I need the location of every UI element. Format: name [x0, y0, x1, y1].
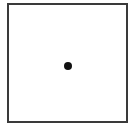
- diagram-canvas: [0, 0, 132, 131]
- center-dot-marker: [64, 62, 72, 70]
